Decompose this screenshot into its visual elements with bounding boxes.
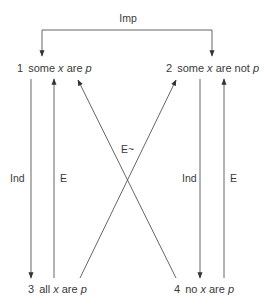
node-4: 4no x are p [174, 283, 234, 295]
node-2: 2some x are not p [166, 62, 259, 74]
logic-square-diagram: Imp 1some x are p 2some x are not p 3all… [0, 0, 264, 306]
imp-label: Imp [119, 12, 137, 24]
node-1: 1some x are p [17, 62, 92, 74]
cross-e-tilde-label: E~ [121, 143, 134, 155]
right-e-label: E [230, 172, 237, 184]
left-e-label: E [60, 172, 67, 184]
node-3: 3all x are p [28, 283, 87, 295]
right-ind-label: Ind [182, 172, 197, 184]
left-ind-label: Ind [10, 172, 25, 184]
